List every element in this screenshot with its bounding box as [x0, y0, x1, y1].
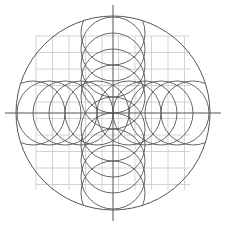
- diagram-svg: [0, 0, 226, 227]
- geometric-diagram: [0, 0, 226, 227]
